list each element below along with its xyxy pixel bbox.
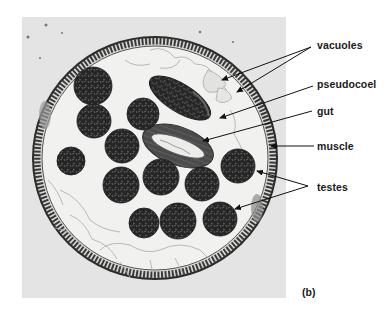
label-muscle: muscle [317, 140, 354, 152]
label-gut: gut [317, 105, 334, 117]
label-vacuoles: vacuoles [317, 39, 363, 51]
arrow-vacuoles-1 [222, 47, 311, 80]
label-testes: testes [317, 181, 348, 193]
arrow-vacuoles-2 [237, 47, 311, 92]
panel-label: (b) [302, 286, 315, 298]
figure: vacuoles pseudocoel gut muscle testes (b… [0, 0, 388, 316]
label-pseudocoel: pseudocoel [317, 78, 376, 90]
